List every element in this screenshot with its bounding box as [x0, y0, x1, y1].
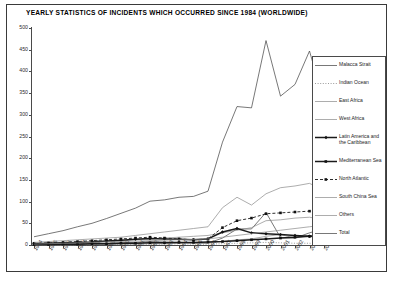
series-lines	[31, 27, 327, 246]
legend-item[interactable]: Total	[315, 229, 350, 237]
legend-swatch	[315, 230, 337, 237]
legend-item[interactable]: Latin America and the Caribbean	[315, 133, 385, 145]
series-line	[34, 41, 324, 237]
legend-swatch	[315, 176, 337, 183]
series-marker	[221, 240, 224, 243]
series-marker	[76, 243, 79, 246]
series-marker	[308, 235, 311, 238]
series-marker	[192, 238, 195, 241]
chart-title: YEARLY STATISTICS OF INCIDENTS WHICH OCC…	[26, 9, 356, 16]
y-tick-label: 400	[19, 69, 28, 74]
legend-swatch	[315, 212, 337, 219]
series-marker	[236, 219, 239, 222]
legend-swatch	[315, 62, 337, 69]
series-marker	[236, 239, 239, 242]
y-tick-label: 150	[19, 177, 28, 182]
legend-swatch	[315, 194, 337, 201]
series-marker	[91, 239, 94, 242]
series-marker	[279, 237, 282, 240]
legend-item[interactable]: Mediterranean Sea	[315, 157, 382, 165]
legend-swatch	[315, 158, 337, 165]
y-tick-label: 450	[19, 47, 28, 52]
legend-item[interactable]: Others	[315, 211, 354, 219]
series-marker	[250, 217, 253, 220]
series-marker	[265, 238, 268, 241]
series-marker	[265, 212, 268, 215]
y-tick-label: 300	[19, 112, 28, 117]
y-tick-label: 50	[22, 221, 28, 226]
series-marker	[279, 212, 282, 215]
y-tick-label: 250	[19, 134, 28, 139]
series-marker	[163, 237, 166, 240]
series-marker	[207, 241, 210, 244]
legend-label: Malacca Strait	[339, 61, 371, 67]
legend-item[interactable]: Malacca Strait	[315, 61, 371, 69]
chart-legend: Malacca Strait Indian Ocean East Africa …	[312, 56, 386, 246]
chart-figure: YEARLY STATISTICS OF INCIDENTS WHICH OCC…	[0, 0, 401, 282]
plot-area: 050100150200250300350400450500 198419851…	[31, 27, 327, 246]
series-marker	[221, 226, 224, 229]
legend-label: Mediterranean Sea	[339, 157, 382, 163]
legend-label: West Africa	[339, 115, 364, 121]
legend-swatch	[315, 98, 337, 105]
series-marker	[120, 238, 123, 241]
series-marker	[105, 242, 108, 245]
series-marker	[105, 238, 108, 241]
series-marker	[294, 211, 297, 214]
legend-label: North Atlantic	[339, 175, 369, 181]
series-marker	[120, 242, 123, 245]
legend-swatch	[315, 134, 337, 141]
legend-label: Indian Ocean	[339, 79, 369, 85]
series-marker	[134, 242, 137, 245]
y-tick-label: 100	[19, 199, 28, 204]
legend-item[interactable]: East Africa	[315, 97, 363, 105]
legend-label: Latin America and the Caribbean	[339, 133, 385, 145]
y-tick-label: 500	[19, 25, 28, 30]
y-tick-label: 350	[19, 90, 28, 95]
legend-swatch	[315, 80, 337, 87]
legend-label: East Africa	[339, 97, 363, 103]
legend-item[interactable]: Indian Ocean	[315, 79, 369, 87]
series-marker	[192, 241, 195, 244]
series-marker	[149, 236, 152, 239]
y-tick-label: 200	[19, 156, 28, 161]
series-marker	[178, 241, 181, 244]
legend-label: Others	[339, 211, 354, 217]
series-marker	[264, 232, 267, 235]
legend-swatch	[315, 116, 337, 123]
series-marker	[294, 236, 297, 239]
legend-label: South China Sea	[339, 193, 377, 199]
series-marker	[149, 242, 152, 245]
series-marker	[76, 240, 79, 243]
series-marker	[308, 210, 311, 213]
legend-label: Total	[339, 229, 350, 235]
series-marker	[91, 242, 94, 245]
series-marker	[250, 238, 253, 241]
series-marker	[134, 237, 137, 240]
legend-item[interactable]: North Atlantic	[315, 175, 369, 183]
legend-item[interactable]: South China Sea	[315, 193, 377, 201]
series-marker	[163, 242, 166, 245]
legend-item[interactable]: West Africa	[315, 115, 364, 123]
